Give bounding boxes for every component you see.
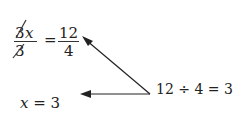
result: x = 3: [20, 96, 60, 111]
cancel-slash-numerator: [16, 20, 26, 38]
arrow-head-left-icon: [80, 90, 91, 98]
cancel-slash-denominator: [13, 44, 24, 58]
arrow-to-fraction-line: [86, 40, 150, 94]
result-value: = 3: [28, 94, 60, 112]
division-note: 12 ÷ 4 = 3: [156, 82, 233, 97]
